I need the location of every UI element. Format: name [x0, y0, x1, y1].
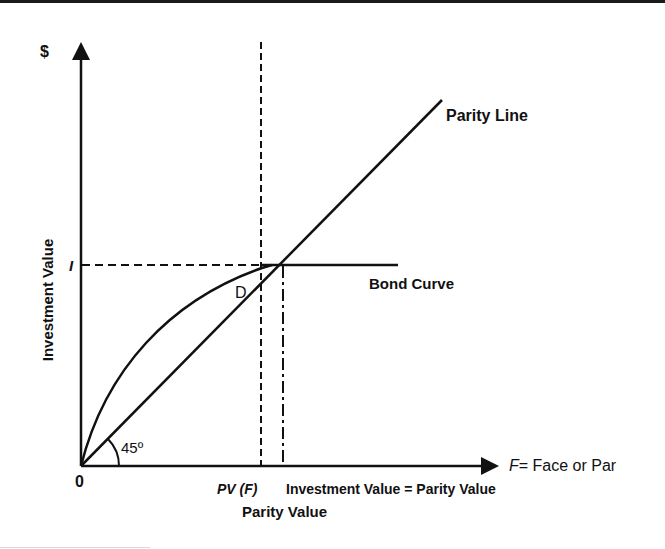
y-axis-symbol: $	[40, 44, 49, 60]
x-axis-label-text: = Face or Par	[519, 457, 616, 474]
x-axis-variable: F	[509, 457, 519, 474]
origin-label: 0	[75, 474, 84, 490]
angle-45-label: 45º	[121, 440, 143, 455]
parity-line-label: Parity Line	[446, 108, 528, 124]
bond-curve-label: Bond Curve	[369, 276, 454, 291]
x-axis-label: F= Face or Par	[509, 458, 616, 474]
x-axis-title: Parity Value	[242, 504, 327, 519]
angle-arc	[108, 439, 119, 466]
x-tick-pv: PV (F)	[217, 482, 257, 496]
y-axis-label: Investment Value	[39, 239, 56, 362]
x-axis-arrow-icon	[481, 457, 499, 475]
y-tick-investment: I	[69, 258, 73, 273]
point-d-label: D	[235, 285, 247, 301]
y-axis-arrow-icon	[72, 42, 90, 60]
x-tick-equal-value: Investment Value = Parity Value	[286, 482, 496, 496]
